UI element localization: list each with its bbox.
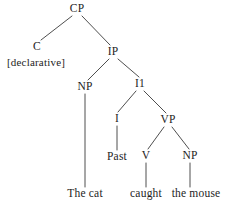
tree-node-cp: CP [70, 3, 84, 15]
tree-node-the_cat: The cat [67, 188, 103, 200]
tree-node-vp: VP [160, 114, 175, 126]
tree-edge-ip-to-i1 [118, 59, 139, 77]
tree-edge-ip-to-np1 [88, 59, 109, 80]
tree-node-declarative: [declarative] [7, 57, 65, 68]
tree-edge-cp-to-c [41, 16, 72, 40]
syntax-tree-figure: CPC[declarative]IPNPI1IVPPastVNPThe catc… [0, 0, 225, 207]
tree-node-the_mouse: the mouse [172, 188, 221, 200]
tree-node-np2: NP [182, 150, 197, 162]
tree-node-caught: caught [130, 188, 162, 200]
tree-node-i: I [115, 113, 119, 125]
tree-edge-vp-to-v [148, 127, 164, 149]
tree-node-v: V [142, 150, 151, 162]
tree-node-np1: NP [77, 81, 92, 93]
tree-node-ip: IP [108, 46, 119, 58]
tree-edge-cp-to-ip [82, 16, 110, 45]
tree-edge-i1-to-vp [144, 91, 166, 113]
tree-node-i1: I1 [135, 78, 145, 90]
tree-edge-vp-to-np2 [172, 127, 189, 149]
tree-node-c: C [33, 41, 41, 53]
tree-edges-layer [0, 0, 225, 207]
tree-edge-i1-to-i [118, 91, 136, 112]
tree-node-past: Past [107, 151, 127, 163]
